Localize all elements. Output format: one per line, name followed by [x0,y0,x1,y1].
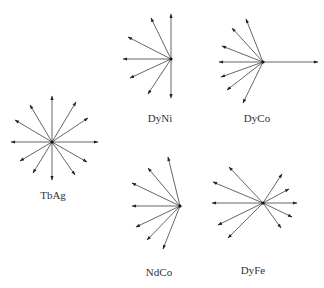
arrow-vector [20,142,52,161]
label-dyni: DyNi [148,112,172,124]
arrow-vector [52,142,75,175]
arrow-star-dyco [219,19,318,103]
arrow-vector [263,174,282,203]
arrow-star-ndco [132,157,182,249]
arrow-vector [128,37,171,59]
arrow-vector [213,182,263,203]
arrow-vector [222,46,263,62]
origin-dot [169,57,172,60]
arrow-vector [52,102,76,142]
arrow-vector [263,203,292,217]
arrow-diagram-svg [0,0,324,288]
origin-dot [178,204,181,207]
label-ndco: NdCo [146,266,172,278]
arrow-vector [15,120,52,142]
arrow-vector [151,18,171,59]
arrow-vector [52,142,87,162]
label-dyfe: DyFe [241,264,265,276]
arrow-vector [232,28,263,62]
arrow-vector [263,203,281,228]
label-tbag: TbAg [40,189,66,201]
arrow-star-dyni [123,14,173,98]
arrow-vector [147,206,180,240]
arrow-vector [227,62,263,90]
arrow-vector [218,203,263,225]
arrow-vector [246,19,263,62]
origin-dot [50,140,53,143]
arrow-vector [228,203,263,238]
arrow-star-dyfe [212,167,297,238]
arrow-vector [30,105,52,142]
origin-dot [261,201,264,204]
label-dyco: DyCo [244,112,270,124]
origin-dot [261,60,264,63]
arrow-vector [229,167,263,203]
arrow-vector [33,142,52,173]
arrow-vector [132,183,180,206]
diagram-canvas: TbAg DyNi DyCo NdCo DyFe [0,0,324,288]
arrow-vector [52,118,88,142]
arrow-vector [263,189,289,203]
arrow-star-tbag [11,96,98,180]
